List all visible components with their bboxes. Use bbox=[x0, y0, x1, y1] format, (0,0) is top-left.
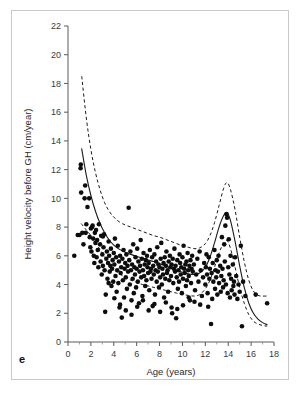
data-point bbox=[141, 298, 146, 303]
data-point bbox=[125, 287, 130, 292]
data-point bbox=[95, 248, 100, 253]
data-point bbox=[102, 268, 107, 273]
data-point bbox=[118, 302, 123, 307]
data-point bbox=[161, 272, 166, 277]
data-point bbox=[120, 256, 125, 261]
data-point bbox=[217, 281, 222, 286]
data-point bbox=[88, 245, 93, 250]
axes: 0246810121416182022024681012141618 bbox=[51, 21, 279, 359]
y-tick-label: 2 bbox=[56, 308, 61, 318]
y-tick-label: 14 bbox=[51, 136, 61, 146]
data-point bbox=[235, 297, 240, 302]
data-point bbox=[156, 269, 161, 274]
data-point bbox=[163, 277, 168, 282]
data-point bbox=[142, 274, 147, 279]
data-point bbox=[234, 274, 239, 279]
data-point bbox=[181, 303, 186, 308]
data-point bbox=[194, 272, 199, 277]
data-point bbox=[185, 251, 190, 256]
data-point bbox=[175, 307, 180, 312]
data-point bbox=[164, 300, 169, 305]
data-point bbox=[107, 254, 112, 259]
data-point bbox=[114, 289, 119, 294]
data-point bbox=[144, 278, 149, 283]
data-point bbox=[180, 255, 185, 260]
data-point bbox=[122, 295, 127, 300]
data-point bbox=[221, 278, 226, 283]
data-point bbox=[79, 190, 84, 195]
data-point bbox=[149, 277, 154, 282]
data-point bbox=[216, 254, 221, 259]
data-point bbox=[169, 305, 174, 310]
data-point bbox=[209, 322, 214, 327]
data-point bbox=[190, 254, 195, 259]
data-point bbox=[169, 262, 174, 267]
data-point bbox=[129, 312, 134, 317]
data-point bbox=[152, 302, 157, 307]
data-point bbox=[210, 261, 215, 266]
data-point bbox=[180, 291, 185, 296]
data-point bbox=[198, 302, 203, 307]
x-tick-label: 16 bbox=[246, 349, 256, 359]
data-point bbox=[243, 294, 248, 299]
data-point bbox=[134, 285, 139, 290]
data-point bbox=[91, 236, 96, 241]
data-point bbox=[101, 245, 106, 250]
data-point bbox=[228, 254, 233, 259]
data-point bbox=[204, 265, 209, 270]
data-point bbox=[220, 235, 225, 240]
data-point bbox=[169, 274, 174, 279]
data-point bbox=[158, 256, 163, 261]
data-point bbox=[94, 255, 99, 260]
x-tick-label: 4 bbox=[111, 349, 116, 359]
data-point bbox=[178, 261, 183, 266]
data-point bbox=[97, 222, 102, 227]
data-point bbox=[167, 278, 172, 283]
data-point bbox=[99, 272, 104, 277]
y-tick-label: 20 bbox=[51, 50, 61, 60]
data-point bbox=[192, 299, 197, 304]
data-point bbox=[135, 305, 140, 310]
data-point bbox=[170, 311, 175, 316]
data-point bbox=[224, 282, 229, 287]
data-point bbox=[147, 288, 152, 293]
x-tick-label: 0 bbox=[65, 349, 70, 359]
data-point bbox=[95, 238, 100, 243]
data-point bbox=[106, 281, 111, 286]
data-point bbox=[231, 284, 236, 289]
figure-frame: 0246810121416182022024681012141618 Age (… bbox=[11, 10, 289, 380]
data-point bbox=[79, 162, 84, 167]
y-tick-label: 4 bbox=[56, 280, 61, 290]
data-point bbox=[106, 239, 111, 244]
data-point bbox=[146, 261, 151, 266]
data-point bbox=[225, 291, 230, 296]
data-point bbox=[171, 281, 176, 286]
data-point bbox=[211, 279, 216, 284]
data-point bbox=[123, 308, 128, 313]
data-point bbox=[133, 272, 138, 277]
data-point bbox=[176, 287, 181, 292]
data-point bbox=[162, 295, 167, 300]
data-point bbox=[184, 284, 189, 289]
data-point bbox=[218, 289, 223, 294]
data-point bbox=[162, 255, 167, 260]
data-point bbox=[110, 266, 115, 271]
data-point bbox=[114, 255, 119, 260]
data-point bbox=[220, 266, 225, 271]
y-tick-label: 8 bbox=[56, 222, 61, 232]
data-point bbox=[105, 277, 110, 282]
data-point bbox=[101, 234, 106, 239]
data-point bbox=[138, 238, 143, 243]
data-point bbox=[125, 264, 130, 269]
data-point bbox=[207, 277, 212, 282]
data-point bbox=[98, 259, 103, 264]
y-tick-label: 6 bbox=[56, 251, 61, 261]
data-point bbox=[154, 279, 159, 284]
data-point bbox=[253, 292, 258, 297]
data-point bbox=[208, 266, 213, 271]
data-point bbox=[196, 279, 201, 284]
data-point bbox=[197, 249, 202, 254]
x-tick-label: 2 bbox=[88, 349, 93, 359]
data-point bbox=[212, 248, 217, 253]
data-point bbox=[153, 292, 158, 297]
